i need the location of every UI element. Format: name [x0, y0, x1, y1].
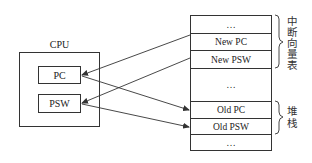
diagram-connectors [0, 0, 312, 163]
bracket-char: 堆 [287, 106, 297, 117]
brace-interrupt-vector-table [275, 15, 283, 68]
bracket-char: 向 [287, 38, 297, 49]
arrow-new-psw-to-psw [82, 58, 190, 103]
bracket-char: 量 [287, 49, 297, 60]
bracket-char: 表 [287, 60, 297, 71]
arrow-new-pc-to-pc [82, 35, 190, 75]
bracket-char: 中 [287, 16, 297, 27]
bracket-char: 断 [287, 27, 297, 38]
arrow-psw-to-old-psw [82, 104, 189, 127]
brace-stack [275, 101, 283, 134]
bracket-char: 栈 [287, 118, 297, 129]
